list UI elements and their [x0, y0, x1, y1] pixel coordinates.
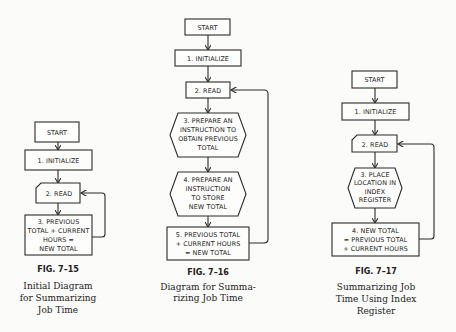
step3-line3: INDEX	[365, 188, 386, 196]
step5-line2: + CURRENT HOURS	[176, 240, 241, 248]
caption-line2: rizing Job Time	[173, 293, 243, 303]
step3-line2: TOTAL + CURRENT	[27, 227, 90, 235]
step4-line2: INSTRUCTION	[186, 185, 231, 193]
step4-line2: = PREVIOUS TOTAL	[344, 236, 408, 244]
step4-line1: 4. NEW TOTAL	[352, 227, 399, 235]
step3-line2: INSTRUCTION TO	[180, 126, 236, 134]
step3-line2: LOCATION IN	[354, 179, 396, 187]
initialize-label: 1. INITIALIZE	[38, 157, 80, 165]
figure-number: FIG. 7–15	[37, 265, 79, 274]
figure-number: FIG. 7–16	[187, 268, 229, 277]
step3-line4: REGISTER	[359, 196, 392, 204]
figure-7-15: START 1. INITIALIZE 2. READ 3. PREVIOUS …	[20, 122, 105, 315]
caption-line1: Initial Diagram	[23, 281, 93, 291]
read-label: 2. READ	[362, 141, 389, 149]
caption-line1: Summarizing Job	[337, 282, 416, 292]
figure-7-17: START 1. INITIALIZE 2. READ 3. PLACE LOC…	[332, 71, 434, 316]
caption-line3: Register	[357, 306, 396, 316]
caption-line1: Diagram for Summa-	[160, 282, 256, 292]
initialize-label: 1. INITIALIZE	[355, 108, 397, 116]
step4-line4: NEW TOTAL	[189, 203, 228, 211]
flowchart-page: START 1. INITIALIZE 2. READ 3. PREVIOUS …	[0, 0, 456, 332]
read-label: 2. READ	[46, 190, 73, 198]
figure-number: FIG. 7–17	[355, 267, 397, 276]
start-label: START	[197, 24, 217, 32]
initialize-label: 1. INITIALIZE	[187, 55, 229, 63]
step5-line3: = NEW TOTAL	[185, 249, 231, 257]
step3-line1: 3. PLACE	[360, 171, 389, 179]
step5-line1: 5. PREVIOUS TOTAL	[176, 231, 241, 239]
step3-line4: TOTAL	[197, 144, 219, 152]
caption-line2: for Summarizing	[20, 293, 97, 303]
start-label: START	[47, 129, 67, 137]
start-label: START	[364, 76, 384, 84]
step3-line1: 3. PREPARE AN	[183, 117, 232, 125]
caption-line3: Job Time	[37, 305, 78, 315]
read-label: 2. READ	[195, 87, 222, 95]
figure-7-16: START 1. INITIALIZE 2. READ 3. PREPARE A…	[160, 19, 268, 303]
step4-line3: + CURRENT HOURS	[343, 245, 408, 253]
step3-line4: NEW TOTAL	[39, 245, 78, 253]
step3-line1: 3. PREVIOUS	[38, 218, 80, 226]
step4-line3: TO STORE	[190, 194, 224, 202]
step3-line3: OBTAIN PREVIOUS	[178, 135, 238, 143]
caption-line2: Time Using Index	[336, 294, 417, 304]
step4-line1: 4. PREPARE AN	[183, 176, 232, 184]
step3-line3: HOURS =	[43, 236, 74, 244]
